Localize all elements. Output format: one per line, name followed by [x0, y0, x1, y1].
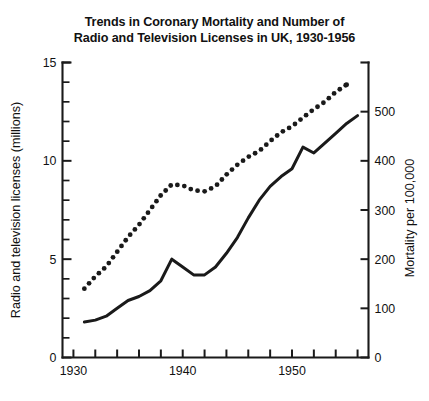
series-point — [304, 113, 309, 118]
series-point — [119, 244, 124, 249]
left-axis-ticklabels: 051015 — [43, 56, 57, 365]
left-tick-label: 0 — [50, 351, 57, 365]
series-point — [287, 126, 292, 131]
series-point — [253, 151, 258, 156]
series-point — [230, 167, 235, 172]
left-tick-label: 15 — [43, 56, 57, 70]
series-point — [168, 183, 173, 188]
series-point — [115, 249, 120, 254]
series-point — [344, 82, 349, 87]
series-point — [321, 100, 326, 105]
chart-plot-area: 051015 0100200300400500 193019401950 Rad… — [0, 0, 429, 401]
bottom-tick-label: 1930 — [60, 364, 88, 378]
left-axis-title: Radio and television licenses (millions) — [9, 102, 23, 318]
series-point — [269, 138, 274, 143]
right-tick-label: 100 — [375, 302, 396, 316]
series-point — [195, 188, 200, 193]
series-point — [224, 172, 229, 177]
right-tick-label: 300 — [375, 204, 396, 218]
series-point — [209, 186, 214, 191]
right-tick-label: 500 — [375, 105, 396, 119]
right-axis-title: Mortality per 100,000 — [403, 159, 417, 277]
series-point — [111, 255, 116, 260]
series-point — [219, 177, 224, 182]
right-tick-label: 0 — [375, 351, 382, 365]
left-tick-label: 5 — [50, 253, 57, 267]
series-point — [132, 227, 137, 232]
series-point — [175, 183, 180, 188]
series-point — [123, 238, 128, 243]
bottom-tick-label: 1950 — [278, 364, 306, 378]
series-dotted-mortality — [82, 82, 349, 291]
right-tick-label: 400 — [375, 154, 396, 168]
series-point — [235, 162, 240, 167]
series-point — [150, 205, 155, 210]
right-axis-ticks — [361, 112, 369, 358]
chart-title-line2: Radio and Television Licenses in UK, 193… — [0, 30, 429, 46]
series-point — [188, 187, 193, 192]
bottom-tick-label: 1940 — [169, 364, 197, 378]
series-point — [332, 91, 337, 96]
chart-title: Trends in Coronary Mortality and Number … — [0, 14, 429, 46]
series-point — [215, 182, 220, 187]
series-point — [158, 193, 163, 198]
series-point — [309, 108, 314, 113]
series-point — [280, 129, 285, 134]
left-axis-ticks — [63, 63, 72, 358]
series-point — [298, 117, 303, 122]
series-point — [106, 261, 111, 266]
right-axis-ticklabels: 0100200300400500 — [375, 105, 396, 365]
series-point — [141, 216, 146, 221]
series-point — [182, 184, 187, 189]
series-solid-licenses — [84, 116, 357, 323]
series-point — [202, 189, 207, 194]
series-point — [102, 266, 107, 271]
series-point — [241, 158, 246, 163]
series-point — [275, 133, 280, 138]
series-point — [82, 286, 87, 291]
series-point — [96, 271, 101, 276]
series-point — [246, 154, 251, 159]
bottom-axis-ticklabels: 193019401950 — [60, 364, 306, 378]
series-point — [337, 87, 342, 92]
series-point — [259, 147, 264, 152]
series-point — [128, 232, 133, 237]
chart-series-group — [82, 82, 358, 322]
chart-figure: Trends in Coronary Mortality and Number … — [0, 0, 429, 401]
series-point — [154, 199, 159, 204]
series-point — [87, 281, 92, 286]
series-point — [163, 188, 168, 193]
series-point — [146, 210, 151, 215]
series-point — [293, 122, 298, 127]
series-point — [315, 104, 320, 109]
left-tick-label: 10 — [43, 154, 57, 168]
chart-title-line1: Trends in Coronary Mortality and Number … — [0, 14, 429, 30]
series-point — [264, 142, 269, 147]
series-point — [137, 222, 142, 227]
series-point — [91, 276, 96, 281]
right-tick-label: 200 — [375, 253, 396, 267]
bottom-axis-ticks — [73, 350, 357, 358]
series-point — [326, 96, 331, 101]
